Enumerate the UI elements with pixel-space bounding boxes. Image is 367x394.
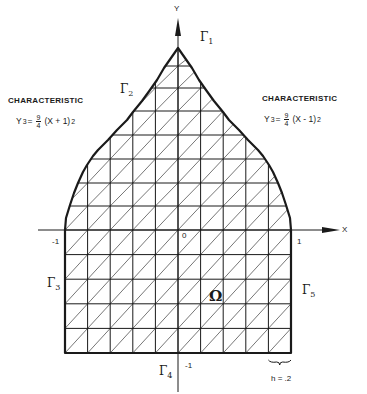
x-axis-label: X [342, 226, 347, 234]
eq-sign: = [28, 117, 33, 126]
eq-lhs-exp: 3 [23, 118, 27, 125]
eq-rhs: (X - 1) [292, 115, 316, 124]
origin-label: 0 [182, 232, 186, 240]
left-characteristic-equation: Y3 = 94 (X + 1)2 [16, 114, 75, 129]
eq-sign: = [276, 115, 281, 124]
boundary-label-gamma3: Γ3 [47, 277, 60, 292]
eq-lhs: Y [264, 115, 270, 124]
boundary-label-gamma2: Γ2 [120, 83, 133, 98]
boundary-label-gamma5: Γ5 [302, 284, 315, 299]
boundary-label-gamma1: Γ1 [200, 31, 213, 46]
y-min-tick-label: -1 [185, 362, 192, 370]
coordinate-axes [38, 18, 340, 392]
finite-element-mesh-diagram [0, 0, 367, 394]
left-characteristic-title: CHARACTERISTIC [8, 97, 83, 105]
y-axis-label: Y [174, 5, 179, 13]
eq-rhs-exp: 2 [317, 116, 321, 123]
eq-rhs-exp: 2 [71, 118, 75, 125]
eq-rhs: (X + 1) [44, 117, 70, 126]
frac-num: 9 [36, 114, 42, 122]
frac-den: 4 [37, 122, 41, 129]
frac-den: 4 [285, 120, 289, 127]
x-max-tick-label: 1 [297, 238, 301, 246]
frac-num: 9 [284, 112, 290, 120]
domain-omega-label: Ω [209, 289, 222, 304]
fraction: 94 [284, 112, 290, 127]
fraction: 94 [36, 114, 42, 129]
right-characteristic-title: CHARACTERISTIC [262, 95, 337, 103]
mesh-size-brace-icon [268, 360, 291, 365]
boundary-label-gamma4: Γ4 [159, 365, 172, 380]
right-characteristic-equation: Y3 = 94 (X - 1)2 [264, 112, 321, 127]
mesh-size-label: h = .2 [271, 375, 291, 383]
eq-lhs-exp: 3 [271, 116, 275, 123]
x-min-tick-label: -1 [52, 238, 59, 246]
eq-lhs: Y [16, 117, 22, 126]
